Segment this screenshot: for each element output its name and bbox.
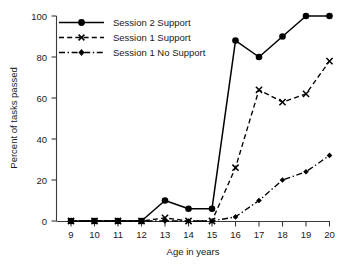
y-axis-title: Percent of tasks passed <box>8 67 19 168</box>
legend-item-session-2-support[interactable]: Session 2 Support <box>59 17 191 28</box>
x-tick-label-15: 15 <box>207 229 218 240</box>
y-tick-label-100: 100 <box>31 11 47 22</box>
data-point-filled-circle <box>256 54 263 61</box>
data-point-filled-circle <box>209 205 216 212</box>
plot-area <box>68 13 333 225</box>
data-point-filled-circle <box>279 33 286 40</box>
y-tick-label-40: 40 <box>36 134 47 145</box>
y-tick-label-60: 60 <box>36 93 47 104</box>
chart-canvas: Percent of tasks passed 100 80 60 40 20 … <box>0 0 339 266</box>
x-tick-label-9: 9 <box>68 229 73 240</box>
x-axis-title: Age in years <box>167 246 220 257</box>
series-session-2-support <box>68 13 333 225</box>
legend-label-session-1-no-support: Session 1 No Support <box>113 47 206 58</box>
x-tick-label-18: 18 <box>277 229 288 240</box>
data-point-filled-circle <box>185 205 192 212</box>
series-line <box>71 155 330 221</box>
data-point-small-diamond <box>280 177 286 183</box>
x-tick-label-10: 10 <box>89 229 100 240</box>
x-tick-label-13: 13 <box>160 229 171 240</box>
x-tick-label-20: 20 <box>324 229 335 240</box>
series-session-1-no-support <box>68 153 332 224</box>
data-point-filled-circle <box>232 37 239 44</box>
data-point-filled-circle <box>326 13 333 20</box>
data-point-small-diamond <box>327 153 333 159</box>
x-tick-label-19: 19 <box>301 229 312 240</box>
legend-item-session-1-no-support[interactable]: Session 1 No Support <box>59 47 206 58</box>
data-point-cross-x <box>303 91 309 97</box>
x-tick-label-11: 11 <box>113 229 123 240</box>
series-line <box>71 61 330 221</box>
x-tick-label-17: 17 <box>254 229 265 240</box>
chart-legend: Session 2 Support Session 1 Support Sess… <box>59 17 206 58</box>
data-point-filled-circle <box>162 197 169 204</box>
data-point-cross-x <box>326 58 332 64</box>
y-tick-label-0: 0 <box>42 216 47 227</box>
x-tick-label-12: 12 <box>136 229 147 240</box>
legend-marker-filled-circle <box>78 19 85 26</box>
legend-label-session-1-support: Session 1 Support <box>113 32 191 43</box>
y-axis-ticks <box>52 16 57 221</box>
series-session-1-support <box>68 58 333 224</box>
y-tick-label-80: 80 <box>36 52 47 63</box>
x-axis-ticks <box>71 222 330 227</box>
line-chart: Percent of tasks passed 100 80 60 40 20 … <box>0 0 339 266</box>
y-tick-label-20: 20 <box>36 175 47 186</box>
x-tick-label-14: 14 <box>183 229 194 240</box>
legend-label-session-2-support: Session 2 Support <box>113 17 191 28</box>
data-point-cross-x <box>279 99 285 105</box>
legend-marker-small-diamond <box>78 49 84 56</box>
legend-item-session-1-support[interactable]: Session 1 Support <box>59 32 191 43</box>
x-tick-label-16: 16 <box>230 229 241 240</box>
data-point-filled-circle <box>303 13 310 20</box>
